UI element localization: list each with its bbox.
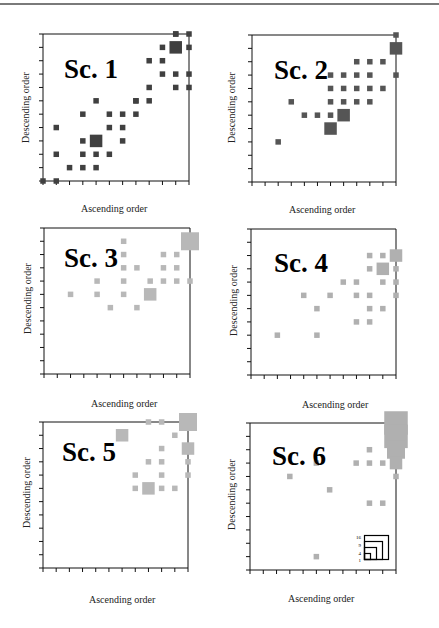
chart-panel-sc6: Sc. 6 Descending order Ascending order — [0, 0, 200, 200]
x-axis-label: Ascending order — [288, 593, 354, 604]
data-square — [353, 460, 359, 466]
scatter-plot-sc6 — [0, 0, 439, 628]
data-square — [380, 500, 386, 506]
data-square — [387, 441, 405, 459]
data-square — [390, 457, 403, 470]
data-square — [367, 460, 373, 466]
data-square — [380, 460, 386, 466]
data-square — [367, 447, 373, 453]
panel-title: Sc. 6 — [272, 441, 326, 472]
y-axis-label: Descending order — [226, 459, 237, 530]
data-square — [314, 554, 320, 560]
data-square — [287, 474, 293, 480]
data-square — [393, 474, 399, 480]
data-square — [327, 487, 333, 493]
data-square — [367, 500, 373, 506]
